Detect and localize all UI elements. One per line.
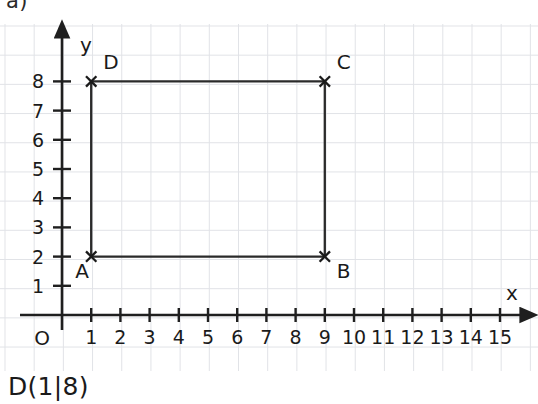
x-tick-label: 13 xyxy=(430,326,454,348)
x-tick-label: 3 xyxy=(144,326,156,348)
point-markers xyxy=(86,76,330,262)
y-tick-label: 4 xyxy=(32,187,44,209)
x-tick-label: 12 xyxy=(400,326,424,348)
x-tick-label: 14 xyxy=(459,326,483,348)
x-tick-label: 7 xyxy=(260,326,272,348)
y-tick-label: 1 xyxy=(32,275,44,297)
x-tick-label: 8 xyxy=(290,326,302,348)
x-tick-label: 4 xyxy=(173,326,185,348)
y-axis-tick-labels: 12345678 xyxy=(32,70,44,296)
point-labels: ABCD xyxy=(75,50,351,282)
x-axis-label: x xyxy=(506,281,518,305)
answer-text: D(1|8) xyxy=(8,372,89,401)
y-axis-label: y xyxy=(80,33,92,57)
x-axis-tick-labels: 123456789101112131415 xyxy=(85,326,512,348)
x-tick-label: 1 xyxy=(85,326,97,348)
y-axis-group: 12345678 y O xyxy=(32,33,92,350)
point-label-B: B xyxy=(337,259,351,283)
point-label-A: A xyxy=(75,259,89,283)
point-label-C: C xyxy=(337,50,351,74)
x-tick-label: 15 xyxy=(488,326,512,348)
x-tick-label: 5 xyxy=(202,326,214,348)
x-axis-group: 123456789101112131415 x xyxy=(20,281,522,348)
coordinate-plane: 123456789101112131415 x 12345678 y O ABC… xyxy=(0,0,538,404)
x-tick-label: 2 xyxy=(114,326,126,348)
y-tick-label: 7 xyxy=(32,100,44,122)
x-tick-label: 11 xyxy=(371,326,395,348)
y-tick-label: 5 xyxy=(32,158,44,180)
x-tick-label: 6 xyxy=(231,326,243,348)
x-tick-label: 10 xyxy=(342,326,366,348)
origin-label: O xyxy=(34,326,50,350)
y-tick-label: 8 xyxy=(32,70,44,92)
x-tick-label: 9 xyxy=(319,326,331,348)
point-label-D: D xyxy=(103,50,118,74)
y-tick-label: 3 xyxy=(32,216,44,238)
y-tick-label: 6 xyxy=(32,129,44,151)
rectangle-shape xyxy=(91,81,325,256)
y-tick-label: 2 xyxy=(32,246,44,268)
